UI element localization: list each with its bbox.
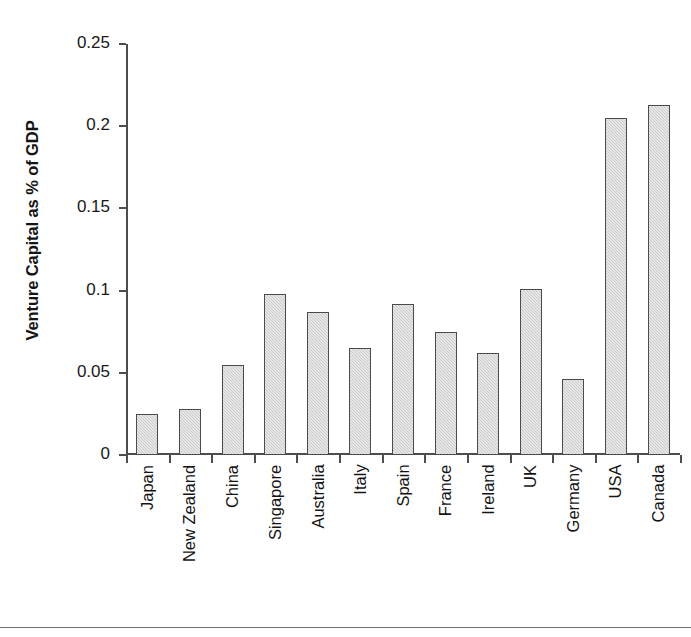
y-axis-tick: 0.2 [119,125,126,127]
x-axis-label-text: Canada [649,465,668,523]
x-axis-label-text: UK [521,465,540,488]
y-axis-tick: 0 [119,454,126,456]
x-axis-label: Italy [339,459,382,599]
x-axis-label: UK [510,459,553,599]
x-axis-label-text: Singapore [266,464,285,539]
y-axis-line [126,44,128,455]
bar-usa [605,118,627,455]
x-axis-label: China [211,459,254,599]
y-axis-tick-label: 0.25 [77,33,110,53]
y-axis-tick: 0.15 [119,207,126,209]
x-axis-label: France [424,459,467,599]
x-axis-label: Japan [126,459,169,599]
footer-divider [0,627,691,628]
x-axis-label: Singapore [254,459,297,599]
y-axis-tick-label: 0.05 [77,362,110,382]
y-axis-tick-label: 0.2 [86,115,110,135]
y-axis-title: Venture Capital as % of GDP [14,40,50,420]
bar-spain [392,304,414,455]
x-axis-label-text: Australia [308,464,327,528]
x-axis-labels: JapanNew ZealandChinaSingaporeAustraliaI… [126,459,680,599]
bar-ireland [477,353,499,455]
bar-singapore [264,294,286,455]
y-axis-tick: 0.05 [119,372,126,374]
x-axis-label-text: France [436,464,455,515]
bar-australia [307,312,329,455]
y-axis-title-text: Venture Capital as % of GDP [23,120,42,340]
x-axis-label-text: Japan [138,465,157,510]
y-axis-tick-label: 0 [101,444,110,464]
bar-italy [349,348,371,455]
x-axis-label-text: USA [607,465,626,499]
chart-page: Venture Capital as % of GDP 00.050.10.15… [0,0,691,637]
x-axis-label: Ireland [467,459,510,599]
x-axis-label: Canada [637,459,680,599]
bar-france [435,332,457,455]
bar-new-zealand [179,409,201,455]
x-axis-label-text: Ireland [479,464,498,514]
x-axis-label-text: Spain [393,464,412,506]
y-axis-tick-label: 0.1 [86,280,110,300]
bar-japan [136,414,158,455]
x-axis-label: Spain [382,459,425,599]
y-axis-tick: 0.1 [119,290,126,292]
bar-germany [562,379,584,455]
x-axis-label: Australia [296,459,339,599]
y-axis-tick: 0.25 [119,43,126,45]
x-axis-label: Germany [552,459,595,599]
bar-china [222,365,244,455]
bar-uk [520,289,542,455]
x-axis-label-text: Germany [564,465,583,533]
x-axis-label-text: China [223,464,242,507]
plot-area: 00.050.10.150.20.25 [126,44,680,455]
x-axis-label: USA [595,459,638,599]
x-axis-label: New Zealand [169,459,212,599]
bar-canada [648,105,670,455]
x-axis-tick [680,455,682,463]
x-axis-label-text: Italy [351,464,370,494]
y-axis-tick-label: 0.15 [77,197,110,217]
x-axis-label-text: New Zealand [180,464,199,561]
